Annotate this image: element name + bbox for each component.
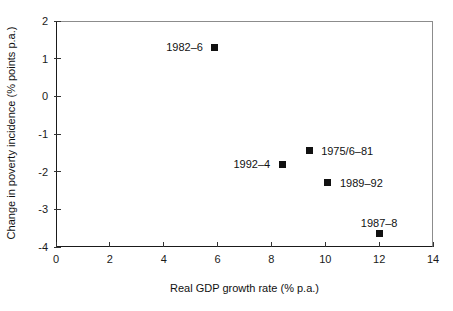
x-tick-label: 8 [256, 252, 286, 266]
data-point-label: 1987–8 [334, 216, 424, 230]
y-tick-label: -1 [18, 127, 48, 141]
x-tick-label: 0 [41, 252, 71, 266]
x-tick-label: 2 [95, 252, 125, 266]
x-tick [163, 242, 164, 247]
data-point [324, 179, 331, 186]
y-axis-title: Change in poverty incidence (% points p.… [5, 27, 17, 240]
y-tick-label: -3 [18, 202, 48, 216]
x-tick [433, 242, 434, 247]
data-point-label: 1982–6 [113, 40, 203, 54]
data-point-label: 1992–4 [180, 157, 270, 171]
x-tick-label: 10 [310, 252, 340, 266]
y-tick [54, 96, 61, 97]
data-point [306, 147, 313, 154]
x-tick-label: 14 [418, 252, 448, 266]
x-tick-label: 4 [149, 252, 179, 266]
x-axis-title: Real GDP growth rate (% p.a.) [56, 282, 433, 294]
y-tick-label: 0 [18, 89, 48, 103]
data-point-label: 1975/6–81 [321, 144, 411, 158]
y-tick-label: 1 [18, 52, 48, 66]
x-tick-label: 6 [203, 252, 233, 266]
x-tick [379, 242, 380, 247]
data-point-label: 1989–92 [340, 176, 430, 190]
x-tick [271, 242, 272, 247]
plot-area [56, 21, 433, 247]
y-tick-label: -4 [18, 240, 48, 254]
poverty-gdp-scatter-chart: Real GDP growth rate (% p.a.) Change in … [0, 0, 453, 311]
y-tick [54, 58, 61, 59]
y-tick [54, 247, 61, 248]
data-point [279, 161, 286, 168]
y-tick [54, 209, 61, 210]
y-tick-label: 2 [18, 14, 48, 28]
y-tick [54, 21, 61, 22]
x-tick [109, 242, 110, 247]
y-tick [54, 134, 61, 135]
x-tick-label: 12 [364, 252, 394, 266]
x-tick [217, 242, 218, 247]
data-point [211, 44, 218, 51]
y-tick [54, 171, 61, 172]
x-tick [325, 242, 326, 247]
data-point [376, 230, 383, 237]
y-tick-label: -2 [18, 165, 48, 179]
